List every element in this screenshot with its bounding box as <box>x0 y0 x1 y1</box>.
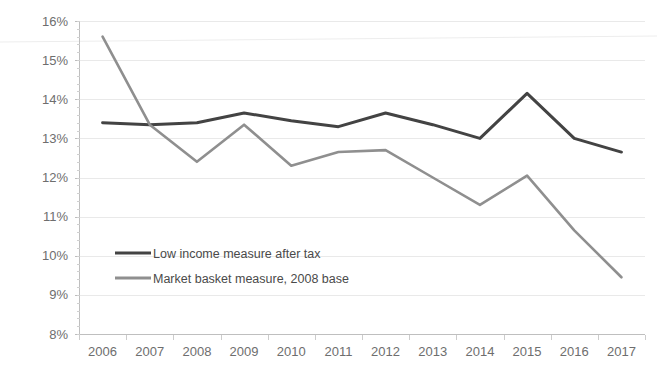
y-tick-label: 13% <box>42 131 68 146</box>
x-tick-label: 2017 <box>607 344 636 359</box>
gridlines-group <box>79 22 645 335</box>
chart-canvas: 16%15%14%13%12%11%10%9%8% 20062007200820… <box>0 0 657 383</box>
scan-artifact-line <box>0 36 657 42</box>
y-tick-label: 12% <box>42 170 68 185</box>
legend-label-2: Market basket measure, 2008 base <box>153 272 349 286</box>
x-tick-label: 2008 <box>182 344 211 359</box>
y-axis-group <box>75 21 80 335</box>
legend-group: Low income measure after taxMarket baske… <box>115 247 349 286</box>
x-tick-label: 2011 <box>324 344 352 359</box>
x-tick-label: 2014 <box>465 344 494 359</box>
y-tick-label: 10% <box>42 248 68 263</box>
x-tick-label: 2010 <box>277 344 306 359</box>
series-group <box>103 37 622 278</box>
x-tick-label: 2016 <box>560 344 589 359</box>
legend-label-1: Low income measure after tax <box>153 247 321 261</box>
y-tick-label: 16% <box>42 14 68 29</box>
y-tick-label: 9% <box>49 287 68 302</box>
y-tick-label: 8% <box>49 327 68 342</box>
x-tick-label: 2012 <box>371 344 400 359</box>
x-axis-group <box>80 335 646 340</box>
x-tick-label: 2007 <box>135 344 164 359</box>
y-tick-label: 15% <box>42 53 68 68</box>
scan-artifact-group <box>0 36 657 42</box>
x-tick-label: 2009 <box>230 344 259 359</box>
x-tick-label: 2015 <box>513 344 542 359</box>
x-tick-label: 2006 <box>88 344 117 359</box>
x-tick-labels-group: 2006200720082009201020112012201320142015… <box>88 344 636 359</box>
y-tick-labels-group: 16%15%14%13%12%11%10%9%8% <box>42 14 68 342</box>
x-tick-label: 2013 <box>418 344 447 359</box>
series-line-2 <box>103 37 622 278</box>
y-tick-label: 11% <box>43 209 68 224</box>
y-tick-label: 14% <box>42 92 68 107</box>
series-line-1 <box>103 93 622 152</box>
line-chart: 16%15%14%13%12%11%10%9%8% 20062007200820… <box>0 0 657 383</box>
